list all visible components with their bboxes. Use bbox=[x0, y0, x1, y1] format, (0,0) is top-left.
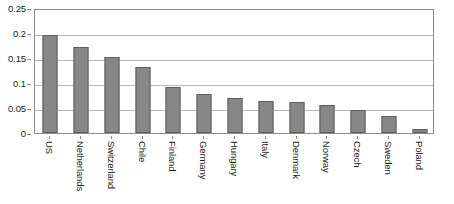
x-tick-mark bbox=[265, 136, 266, 139]
y-tick-mark bbox=[27, 84, 31, 85]
x-label-slot: Czech bbox=[342, 136, 373, 204]
x-tick-label: Denmark bbox=[290, 141, 300, 179]
x-tick-mark bbox=[388, 136, 389, 139]
x-tick-label: Italy bbox=[259, 141, 269, 158]
plot-area bbox=[34, 9, 434, 134]
bar-slot bbox=[158, 10, 189, 133]
x-label-slot: Netherlands bbox=[65, 136, 96, 204]
bar[interactable] bbox=[320, 105, 335, 133]
bar-slot bbox=[343, 10, 374, 133]
bar[interactable] bbox=[197, 94, 212, 133]
bar-slot bbox=[127, 10, 158, 133]
x-label-slot: Chile bbox=[126, 136, 157, 204]
x-tick-label: Germany bbox=[198, 141, 208, 179]
bar[interactable] bbox=[258, 101, 273, 134]
y-tick-mark bbox=[27, 9, 31, 10]
x-tick-mark bbox=[203, 136, 204, 139]
x-label-slot: Finland bbox=[157, 136, 188, 204]
bar[interactable] bbox=[166, 87, 181, 133]
bar[interactable] bbox=[104, 57, 119, 133]
y-tick-mark bbox=[27, 59, 31, 60]
bar[interactable] bbox=[135, 67, 150, 134]
x-tick-mark bbox=[49, 136, 50, 139]
x-tick-mark bbox=[419, 136, 420, 139]
y-tick-mark bbox=[27, 34, 31, 35]
bar[interactable] bbox=[74, 47, 89, 133]
x-tick-mark bbox=[296, 136, 297, 139]
x-tick-mark bbox=[172, 136, 173, 139]
bar-slot bbox=[312, 10, 343, 133]
x-tick-mark bbox=[357, 136, 358, 139]
y-tick-mark bbox=[27, 109, 31, 110]
y-tick-label: 0.05 bbox=[8, 104, 26, 114]
bar[interactable] bbox=[227, 98, 242, 133]
x-tick-label: Poland bbox=[413, 141, 423, 170]
x-axis: USNetherlandsSwitzerlandChileFinlandGerm… bbox=[34, 136, 434, 204]
x-label-slot: Hungary bbox=[219, 136, 250, 204]
y-tick-label: 0.2 bbox=[13, 29, 26, 39]
x-label-slot: Sweden bbox=[372, 136, 403, 204]
y-tick-label: 0 bbox=[21, 129, 26, 139]
bar-slot bbox=[281, 10, 312, 133]
x-tick-label: Sweden bbox=[382, 141, 392, 175]
x-label-slot: US bbox=[34, 136, 65, 204]
bar-slot bbox=[250, 10, 281, 133]
bar-slot bbox=[404, 10, 435, 133]
bar-slot bbox=[220, 10, 251, 133]
bar[interactable] bbox=[351, 110, 366, 134]
x-label-slot: Switzerland bbox=[96, 136, 127, 204]
bar[interactable] bbox=[289, 102, 304, 134]
x-tick-label: US bbox=[44, 141, 54, 154]
y-tick-label: 0.25 bbox=[8, 4, 26, 14]
x-label-slot: Denmark bbox=[280, 136, 311, 204]
bar[interactable] bbox=[412, 129, 427, 134]
x-tick-label: Chile bbox=[136, 141, 146, 162]
y-tick-label: 0.1 bbox=[13, 79, 26, 89]
x-tick-label: Hungary bbox=[228, 141, 238, 176]
y-tick-mark bbox=[27, 134, 31, 135]
x-label-slot: Italy bbox=[249, 136, 280, 204]
x-label-slot: Norway bbox=[311, 136, 342, 204]
bar-slot bbox=[97, 10, 128, 133]
x-label-slot: Germany bbox=[188, 136, 219, 204]
y-axis: 00.050.10.150.20.25 bbox=[0, 0, 31, 144]
bar-slot bbox=[66, 10, 97, 133]
x-tick-label: Czech bbox=[352, 141, 362, 167]
bar-slot bbox=[35, 10, 66, 133]
x-label-slot: Poland bbox=[403, 136, 434, 204]
x-tick-label: Switzerland bbox=[105, 141, 115, 189]
bar-chart-figure: 00.050.10.150.20.25 USNetherlandsSwitzer… bbox=[0, 0, 454, 204]
x-tick-mark bbox=[80, 136, 81, 139]
y-tick-label: 0.15 bbox=[8, 54, 26, 64]
x-tick-label: Finland bbox=[167, 141, 177, 171]
x-tick-mark bbox=[234, 136, 235, 139]
bar-slot bbox=[373, 10, 404, 133]
x-tick-label: Netherlands bbox=[75, 141, 85, 191]
x-tick-mark bbox=[142, 136, 143, 139]
bar[interactable] bbox=[43, 35, 58, 133]
x-tick-mark bbox=[111, 136, 112, 139]
x-tick-mark bbox=[326, 136, 327, 139]
bar-slot bbox=[189, 10, 220, 133]
x-tick-label: Norway bbox=[321, 141, 331, 173]
bar[interactable] bbox=[381, 116, 396, 133]
